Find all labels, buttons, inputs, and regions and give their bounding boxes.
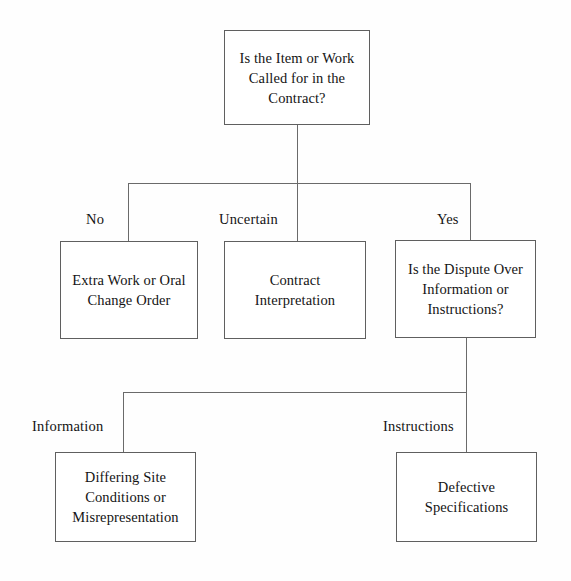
connector-branch2-drop-information: [123, 392, 124, 452]
flowchart-canvas: Is the Item or Work Called for in the Co…: [0, 0, 571, 581]
connector-branch2-bar: [123, 392, 467, 393]
node-defective-specifications-label: Defective Specifications: [425, 477, 509, 517]
node-extra-work-label: Extra Work or Oral Change Order: [72, 270, 186, 310]
edge-label-yes-text: Yes: [437, 211, 459, 227]
connector-branch2-drop-instructions: [466, 392, 467, 452]
edge-label-information: Information: [32, 419, 103, 434]
edge-label-instructions-text: Instructions: [383, 418, 454, 434]
connector-branch1-drop-uncertain: [297, 183, 298, 241]
connector-dispute-down: [466, 338, 467, 392]
connector-branch1-drop-yes: [470, 183, 471, 240]
node-root-question-label: Is the Item or Work Called for in the Co…: [240, 48, 355, 108]
node-dispute-question: Is the Dispute Over Information or Instr…: [395, 240, 536, 338]
node-defective-specifications: Defective Specifications: [396, 452, 537, 542]
edge-label-uncertain-text: Uncertain: [219, 211, 278, 227]
node-dispute-question-label: Is the Dispute Over Information or Instr…: [408, 259, 523, 319]
node-contract-interpretation: Contract Interpretation: [224, 241, 366, 339]
node-differing-site-conditions-label: Differing Site Conditions or Misrepresen…: [72, 467, 178, 527]
edge-label-information-text: Information: [32, 418, 103, 434]
edge-label-no: No: [86, 212, 104, 227]
node-contract-interpretation-label: Contract Interpretation: [255, 270, 335, 310]
connector-root-down: [297, 125, 298, 183]
node-extra-work: Extra Work or Oral Change Order: [60, 241, 198, 339]
connector-branch1-drop-no: [128, 183, 129, 241]
edge-label-instructions: Instructions: [383, 419, 454, 434]
node-differing-site-conditions: Differing Site Conditions or Misrepresen…: [55, 452, 196, 542]
node-root-question: Is the Item or Work Called for in the Co…: [224, 30, 370, 125]
connector-branch1-bar: [128, 183, 471, 184]
edge-label-no-text: No: [86, 211, 104, 227]
edge-label-yes: Yes: [437, 212, 459, 227]
edge-label-uncertain: Uncertain: [219, 212, 278, 227]
